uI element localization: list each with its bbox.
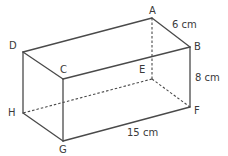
cuboid-diagram: ABCDEFGH 6 cm8 cm15 cm — [0, 0, 228, 156]
vertex-label-e: E — [139, 64, 145, 75]
edge-hg — [23, 113, 63, 141]
edge-dc — [23, 52, 63, 79]
hidden-edge-eh — [23, 79, 152, 113]
vertex-label-f: F — [194, 105, 200, 116]
hidden-edge-ef — [152, 79, 190, 107]
edge-cb — [63, 47, 190, 79]
visible-edges — [23, 18, 190, 141]
vertex-label-g: G — [59, 144, 67, 155]
vertex-label-c: C — [60, 64, 67, 75]
dimension-label-ab: 6 cm — [172, 19, 197, 30]
hidden-edges — [23, 18, 190, 113]
vertex-label-b: B — [194, 41, 201, 52]
dimension-label-gf: 15 cm — [127, 127, 158, 138]
edge-ad — [23, 18, 152, 52]
vertex-label-d: D — [9, 40, 17, 51]
vertex-label-a: A — [149, 5, 156, 16]
vertex-label-h: H — [8, 107, 16, 118]
dimension-label-bf: 8 cm — [195, 72, 220, 83]
